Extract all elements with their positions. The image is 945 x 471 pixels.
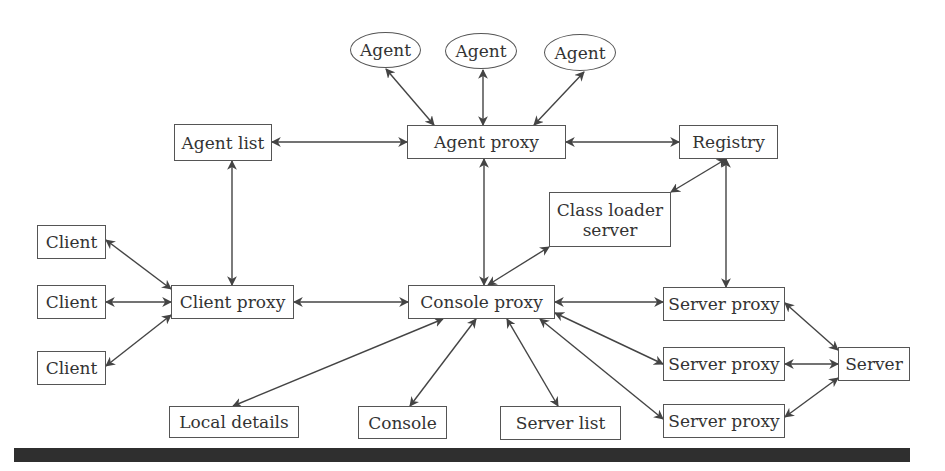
node-label: Registry (692, 132, 764, 152)
node-console: Console (358, 406, 447, 439)
edge-console-proxy-console (410, 319, 476, 406)
node-label: Client proxy (180, 292, 286, 312)
node-label: Agent proxy (434, 132, 539, 152)
node-agent-list: Agent list (174, 124, 272, 161)
edge-class-loader-server-console-proxy (488, 247, 549, 285)
edge-server-proxy3-server (785, 378, 838, 417)
edge-console-proxy-server-list (507, 319, 558, 406)
node-registry: Registry (679, 125, 778, 159)
node-local-details: Local details (169, 406, 299, 438)
connector-layer (0, 0, 945, 471)
node-label: Server proxy (668, 411, 779, 431)
edge-client1-client-proxy (106, 240, 171, 289)
node-agent1: Agent (350, 32, 421, 68)
edge-console-proxy-server-proxy2 (555, 313, 663, 364)
node-label: Server proxy (668, 294, 779, 314)
node-label: Console proxy (420, 292, 543, 312)
node-label: Server (845, 354, 903, 374)
node-server: Server (838, 347, 910, 381)
node-client2: Client (37, 285, 106, 319)
node-server-list: Server list (500, 406, 621, 440)
node-label: Agent (360, 40, 411, 60)
node-agent3: Agent (544, 34, 616, 71)
node-agent-proxy: Agent proxy (407, 125, 566, 159)
node-client-proxy: Client proxy (171, 285, 294, 319)
edge-console-proxy-local-details (233, 319, 443, 406)
node-label: Console (368, 413, 437, 433)
node-label: Agent (555, 43, 606, 63)
node-label: Client (46, 232, 98, 252)
edge-agent3-agent-proxy (534, 72, 584, 125)
node-label: Server list (516, 413, 605, 433)
node-label: Agent (456, 41, 507, 61)
node-label: Client (46, 292, 98, 312)
edge-console-proxy-server-proxy3 (540, 319, 663, 419)
node-server-proxy2: Server proxy (663, 347, 785, 381)
node-label: Agent list (182, 133, 265, 153)
footer-divider-bar (14, 448, 910, 462)
node-label: Class loader server (557, 200, 663, 240)
node-class-loader-server: Class loader server (549, 192, 671, 247)
edge-server-proxy1-server (785, 303, 838, 350)
node-label: Local details (179, 412, 289, 432)
node-console-proxy: Console proxy (408, 285, 555, 319)
node-client3: Client (37, 351, 106, 385)
edge-registry-class-loader-server (671, 159, 726, 192)
node-label: Client (46, 358, 98, 378)
edge-agent1-agent-proxy (386, 69, 434, 125)
node-agent2: Agent (445, 33, 517, 69)
node-label: Server proxy (668, 354, 779, 374)
edge-client3-client-proxy (106, 315, 171, 366)
node-server-proxy3: Server proxy (663, 404, 785, 438)
node-client1: Client (37, 225, 106, 259)
node-server-proxy1: Server proxy (663, 287, 785, 321)
architecture-diagram: AgentAgentAgentAgent listAgent proxyRegi… (0, 0, 945, 471)
